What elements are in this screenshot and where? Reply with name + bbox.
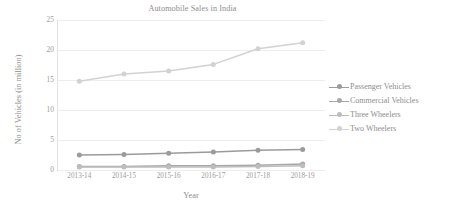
- data-point: [166, 69, 171, 74]
- x-tick-label: 2018-19: [281, 173, 325, 180]
- legend-label: Passenger Vehicles: [350, 83, 411, 91]
- y-tick-label: 10: [32, 106, 54, 113]
- legend-marker-icon: [337, 98, 342, 103]
- series-passenger-vehicles: [77, 147, 305, 157]
- data-point: [211, 165, 216, 170]
- data-point: [300, 40, 305, 45]
- legend-label: Two Wheelers: [350, 125, 396, 133]
- data-point: [122, 72, 127, 77]
- x-tick-label: 2017-18: [236, 173, 280, 180]
- x-tick-label: 2013-14: [57, 173, 101, 180]
- y-tick-label: 5: [32, 136, 54, 143]
- y-axis-tick-labels: 0510152025: [30, 20, 54, 170]
- automobile-sales-chart: Automobile Sales in India 0510152025 201…: [0, 0, 453, 213]
- series-commercial-vehicles: [77, 162, 305, 169]
- data-point: [77, 153, 82, 158]
- series-plot: [57, 20, 325, 170]
- data-point: [300, 147, 305, 152]
- y-tick-label: 20: [32, 46, 54, 53]
- legend-swatch-icon: [329, 124, 349, 134]
- x-axis-title: Year: [57, 191, 325, 200]
- legend-item-three-wheelers[interactable]: Three Wheelers: [329, 108, 453, 122]
- x-axis-tick-labels: 2013-142014-152015-162016-172017-182018-…: [57, 173, 325, 185]
- data-point: [166, 151, 171, 156]
- series-line: [79, 43, 302, 81]
- data-point: [256, 164, 261, 169]
- legend-marker-icon: [337, 112, 342, 117]
- legend-swatch-icon: [329, 110, 349, 120]
- series-two-wheelers: [77, 40, 305, 83]
- y-tick-label: 15: [32, 76, 54, 83]
- data-point: [122, 152, 127, 157]
- legend-item-two-wheelers[interactable]: Two Wheelers: [329, 122, 453, 136]
- legend-item-commercial-vehicles[interactable]: Commercial Vehicles: [329, 94, 453, 108]
- chart-title: Automobile Sales in India: [60, 4, 325, 13]
- x-tick-label: 2016-17: [191, 173, 235, 180]
- legend-label: Three Wheelers: [350, 111, 401, 119]
- data-point: [256, 148, 261, 153]
- series-line: [79, 150, 302, 155]
- x-tick-label: 2014-15: [102, 173, 146, 180]
- legend-marker-icon: [337, 126, 342, 131]
- legend-label: Commercial Vehicles: [350, 97, 419, 105]
- y-axis-title: No of Vehicles (in million): [14, 30, 23, 170]
- data-point: [166, 165, 171, 170]
- y-tick-label: 25: [32, 16, 54, 23]
- data-point: [122, 165, 127, 170]
- legend-item-passenger-vehicles[interactable]: Passenger Vehicles: [329, 80, 453, 94]
- data-point: [256, 46, 261, 51]
- data-point: [211, 150, 216, 155]
- x-tick-label: 2015-16: [147, 173, 191, 180]
- legend-marker-icon: [337, 84, 342, 89]
- y-tick-label: 0: [32, 166, 54, 173]
- data-point: [211, 62, 216, 67]
- legend-swatch-icon: [329, 82, 349, 92]
- data-point: [77, 79, 82, 84]
- chart-legend: Passenger VehiclesCommercial VehiclesThr…: [329, 80, 453, 136]
- data-point: [77, 165, 82, 170]
- legend-swatch-icon: [329, 96, 349, 106]
- gridline: [57, 170, 325, 171]
- data-point: [300, 163, 305, 168]
